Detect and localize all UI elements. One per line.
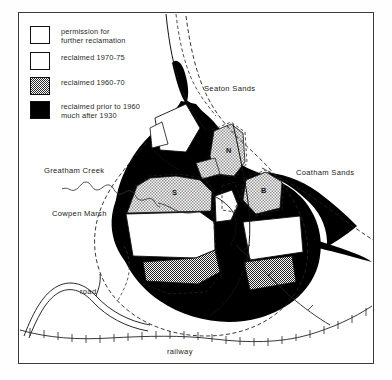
legend-swatch-permission bbox=[30, 26, 50, 44]
legend-label-1960-70: reclaimed 1960-70 bbox=[61, 77, 125, 87]
label-road: road bbox=[80, 287, 96, 296]
white-area-right bbox=[243, 216, 303, 260]
dashed-line-top bbox=[176, 14, 216, 116]
label-seaton-sands: Seaton Sands bbox=[204, 84, 255, 93]
legend-item-1: reclaimed 1970-75 bbox=[30, 52, 125, 70]
marker-b: B bbox=[261, 186, 266, 195]
road-branch bbox=[96, 274, 100, 296]
marker-n: N bbox=[226, 146, 231, 155]
legend-item-3: reclaimed prior to 1960 much after 1930 bbox=[30, 101, 140, 120]
label-greatham-creek: Greatham Creek bbox=[44, 166, 104, 175]
marker-s: S bbox=[172, 188, 177, 197]
white-area-center-left bbox=[126, 212, 215, 258]
road-line-inner bbox=[29, 290, 148, 338]
legend-item-2: reclaimed 1960-70 bbox=[30, 77, 125, 95]
legend-swatch-pre-1960 bbox=[30, 101, 50, 119]
legend-label-permission: permission for further reclamation bbox=[61, 26, 125, 45]
legend-swatch-1970-75 bbox=[30, 52, 50, 70]
label-railway: railway bbox=[167, 347, 193, 356]
legend-label-pre-1960: reclaimed prior to 1960 much after 1930 bbox=[61, 101, 140, 120]
legend-swatch-1960-70 bbox=[30, 77, 50, 95]
map-figure: permission for further reclamation recla… bbox=[0, 0, 392, 380]
legend-item-0: permission for further reclamation bbox=[30, 26, 125, 45]
legend-label-1970-75: reclaimed 1970-75 bbox=[61, 52, 125, 62]
label-coatham-sands: Coatham Sands bbox=[296, 168, 354, 177]
label-cowpen-marsh: Cowpen Marsh bbox=[52, 209, 107, 218]
